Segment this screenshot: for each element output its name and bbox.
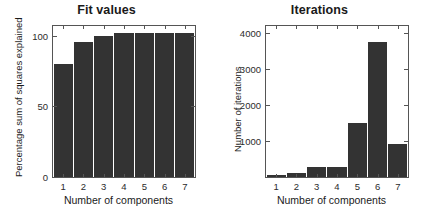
x-tick-mark-top-iterations-5 — [357, 26, 358, 29]
y-tick-mark-fit-values-0 — [53, 177, 57, 178]
panel-iterations: Iterations 1000200030004000 1234567 Numb… — [213, 0, 426, 215]
x-tick-label-iterations-3: 3 — [314, 181, 319, 192]
x-tick-mark-top-fit-values-2 — [83, 26, 84, 29]
y-tick-mark-right-iterations-3000 — [404, 69, 408, 70]
y-tick-mark-fit-values-50 — [53, 106, 57, 107]
bar-fit-values-4 — [114, 33, 133, 177]
x-tick-mark-top-fit-values-1 — [63, 26, 64, 29]
bar-fit-values-6 — [155, 33, 174, 177]
x-tick-mark-iterations-7 — [398, 174, 399, 177]
x-tick-mark-top-iterations-2 — [296, 26, 297, 29]
x-tick-mark-iterations-2 — [296, 174, 297, 177]
bar-iterations-7 — [388, 144, 407, 177]
y-tick-mark-fit-values-100 — [53, 36, 57, 37]
y-tick-mark-right-fit-values-50 — [191, 106, 195, 107]
x-tick-mark-fit-values-5 — [144, 174, 145, 177]
plot-area-iterations — [266, 26, 408, 177]
plot-area-fit-values — [53, 26, 195, 177]
x-tick-mark-fit-values-2 — [83, 174, 84, 177]
x-tick-mark-fit-values-6 — [165, 174, 166, 177]
chart-title-fit-values: Fit values — [0, 3, 213, 17]
bar-fit-values-3 — [94, 36, 113, 177]
y-tick-label-iterations-4000: 4000 — [240, 28, 261, 39]
x-tick-mark-iterations-1 — [276, 174, 277, 177]
x-tick-mark-top-fit-values-6 — [165, 26, 166, 29]
x-tick-label-iterations-4: 4 — [334, 181, 339, 192]
y-tick-label-fit-values-100: 100 — [32, 30, 48, 41]
x-tick-mark-top-iterations-1 — [276, 26, 277, 29]
x-tick-label-fit-values-6: 6 — [162, 181, 167, 192]
x-tick-mark-iterations-5 — [357, 174, 358, 177]
x-tick-mark-top-iterations-3 — [317, 26, 318, 29]
x-tick-mark-fit-values-7 — [185, 174, 186, 177]
bar-series-fit-values — [53, 26, 195, 177]
y-tick-mark-right-fit-values-100 — [191, 36, 195, 37]
y-tick-label-iterations-1000: 1000 — [240, 136, 261, 147]
y-axis-label-fit-values: Percentage sum of squares explained — [13, 18, 24, 178]
y-tick-label-iterations-2000: 2000 — [240, 100, 261, 111]
x-tick-mark-top-iterations-6 — [378, 26, 379, 29]
y-tick-mark-right-iterations-4000 — [404, 33, 408, 34]
x-tick-label-iterations-5: 5 — [355, 181, 360, 192]
plot-frame-fit-values: 050100 1234567 — [52, 25, 196, 178]
y-tick-mark-right-iterations-1000 — [404, 141, 408, 142]
bar-iterations-6 — [368, 42, 387, 177]
x-tick-mark-top-fit-values-5 — [144, 26, 145, 29]
y-tick-mark-iterations-4000 — [266, 33, 270, 34]
y-tick-mark-iterations-2000 — [266, 105, 270, 106]
x-tick-label-iterations-2: 2 — [294, 181, 299, 192]
y-tick-mark-iterations-3000 — [266, 69, 270, 70]
panel-fit-values: Fit values 050100 1234567 Number of comp… — [0, 0, 213, 215]
x-tick-mark-fit-values-1 — [63, 174, 64, 177]
x-tick-label-iterations-6: 6 — [375, 181, 380, 192]
x-tick-label-fit-values-1: 1 — [60, 181, 65, 192]
x-tick-mark-iterations-3 — [317, 174, 318, 177]
x-tick-mark-top-iterations-7 — [398, 26, 399, 29]
y-axis-label-iterations: Number of iterations — [232, 66, 243, 152]
x-tick-label-iterations-7: 7 — [395, 181, 400, 192]
y-tick-mark-iterations-1000 — [266, 141, 270, 142]
x-axis-label-fit-values: Number of components — [30, 194, 207, 206]
bar-fit-values-5 — [135, 33, 154, 177]
y-tick-label-fit-values-50: 50 — [37, 101, 48, 112]
x-tick-mark-top-fit-values-7 — [185, 26, 186, 29]
x-tick-label-fit-values-2: 2 — [81, 181, 86, 192]
x-tick-mark-top-fit-values-4 — [124, 26, 125, 29]
x-tick-mark-top-fit-values-3 — [104, 26, 105, 29]
x-tick-mark-iterations-6 — [378, 174, 379, 177]
x-tick-label-iterations-1: 1 — [273, 181, 278, 192]
bar-fit-values-2 — [74, 42, 93, 177]
x-tick-label-fit-values-3: 3 — [101, 181, 106, 192]
bar-iterations-5 — [348, 123, 367, 177]
x-tick-mark-fit-values-3 — [104, 174, 105, 177]
bar-series-iterations — [266, 26, 408, 177]
x-tick-label-fit-values-7: 7 — [182, 181, 187, 192]
plot-frame-iterations: 1000200030004000 1234567 — [265, 25, 409, 178]
y-tick-label-iterations-3000: 3000 — [240, 64, 261, 75]
chart-title-iterations: Iterations — [213, 3, 426, 17]
x-tick-mark-fit-values-4 — [124, 174, 125, 177]
x-tick-label-fit-values-4: 4 — [121, 181, 126, 192]
y-tick-label-fit-values-0: 0 — [43, 172, 48, 183]
y-tick-mark-right-fit-values-0 — [191, 177, 195, 178]
x-tick-mark-iterations-4 — [337, 174, 338, 177]
bar-fit-values-7 — [175, 33, 194, 177]
figure-two-panel-bar-charts: Fit values 050100 1234567 Number of comp… — [0, 0, 426, 215]
x-axis-label-iterations: Number of components — [243, 194, 420, 206]
x-tick-mark-top-iterations-4 — [337, 26, 338, 29]
y-tick-mark-right-iterations-2000 — [404, 105, 408, 106]
x-tick-label-fit-values-5: 5 — [142, 181, 147, 192]
bar-fit-values-1 — [54, 64, 73, 177]
